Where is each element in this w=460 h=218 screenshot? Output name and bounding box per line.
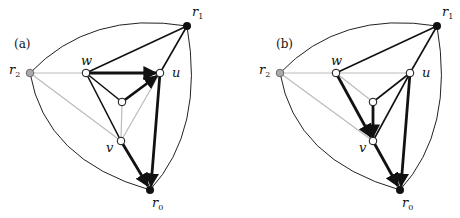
node-r0 xyxy=(146,186,154,194)
label-w: w xyxy=(331,53,342,68)
edge-u-c xyxy=(373,73,410,102)
label-r1: r1 xyxy=(442,4,453,21)
label-r1: r1 xyxy=(192,4,203,21)
arrow-v-r0 xyxy=(121,141,148,186)
label-r0: r0 xyxy=(402,195,413,212)
node-w xyxy=(82,69,90,77)
edge-c-v xyxy=(121,102,122,141)
label-u: u xyxy=(422,65,430,80)
arrow-u-r0 xyxy=(401,73,410,186)
node-c xyxy=(369,98,377,106)
node-u xyxy=(156,69,164,77)
node-u xyxy=(406,69,414,77)
node-w xyxy=(332,69,340,77)
label-r0: r0 xyxy=(152,195,163,212)
label-u: u xyxy=(172,65,180,80)
arrow-c-u xyxy=(122,76,157,102)
node-r2 xyxy=(26,69,34,77)
node-r2 xyxy=(276,69,284,77)
edge-w-v xyxy=(86,73,121,141)
outer-edge-r2-r0 xyxy=(280,73,400,190)
panel-b: (b) r2 r1 r0 w u v xyxy=(259,4,453,212)
node-c xyxy=(118,98,126,106)
node-v xyxy=(117,137,125,145)
panel-a: (a) r2 r1 r0 w u v xyxy=(9,4,203,212)
panel-a-label: (a) xyxy=(14,37,31,51)
edge-w-c xyxy=(336,73,373,102)
label-r2: r2 xyxy=(9,62,20,79)
edge-r2-v xyxy=(280,73,373,141)
node-r1 xyxy=(433,22,441,30)
label-w: w xyxy=(81,53,92,68)
edge-r2-v xyxy=(30,73,121,141)
label-r2: r2 xyxy=(259,62,270,79)
node-r1 xyxy=(183,22,191,30)
node-v xyxy=(369,137,377,145)
node-r0 xyxy=(396,186,404,194)
arrow-v-r0 xyxy=(373,141,398,186)
edge-w-c xyxy=(86,73,122,102)
panel-b-label: (b) xyxy=(276,37,293,51)
diagram-canvas: (a) r2 r1 r0 w u v (b) xyxy=(0,0,460,218)
arrow-u-r0 xyxy=(151,73,160,186)
label-v: v xyxy=(359,140,367,155)
label-v: v xyxy=(106,140,114,155)
outer-edge-r2-r0 xyxy=(30,73,150,190)
